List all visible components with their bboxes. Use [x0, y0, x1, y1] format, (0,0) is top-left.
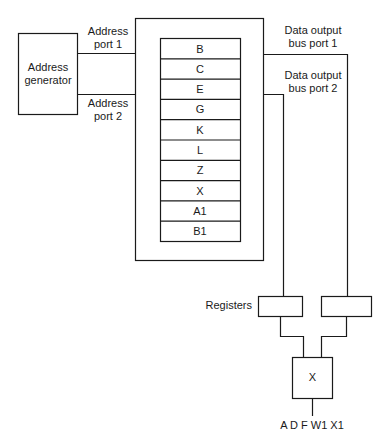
data-bus-2-line	[263, 95, 284, 297]
data-bus-2-line1: Data output	[268, 69, 358, 82]
memory-cell: A1	[160, 201, 240, 221]
register-right	[322, 297, 372, 317]
data-bus-1-line2: bus port 1	[268, 37, 358, 50]
data-bus-2-label: Data output bus port 2	[268, 69, 358, 95]
data-bus-1-label: Data output bus port 1	[268, 24, 358, 50]
address-port-2-line1: Address	[83, 97, 133, 110]
memory-cell: G	[160, 99, 240, 119]
memory-cell: Z	[160, 160, 240, 180]
address-port-1-line2: port 1	[83, 38, 133, 51]
data-bus-1-line1: Data output	[268, 24, 358, 37]
address-port-2-line2: port 2	[83, 110, 133, 123]
register-left	[259, 297, 303, 317]
memory-cell: E	[160, 79, 240, 99]
data-bus-2-line2: bus port 2	[268, 82, 358, 95]
memory-cell: B1	[160, 221, 240, 241]
memory-cell: L	[160, 140, 240, 160]
address-port-1-line1: Address	[83, 25, 133, 38]
registers-label: Registers	[200, 299, 252, 312]
address-port-2-label: Address port 2	[83, 97, 133, 123]
memory-cell: B	[160, 39, 240, 59]
address-generator-line2: generator	[18, 74, 78, 87]
memory-cell: K	[160, 120, 240, 140]
address-port-1-label: Address port 1	[83, 25, 133, 51]
memory-cell: X	[160, 181, 240, 201]
memory-cell: C	[160, 59, 240, 79]
address-generator-label: Address generator	[18, 61, 78, 87]
output-label: A D F W1 X1	[262, 419, 362, 432]
operator-label: X	[292, 371, 333, 384]
address-generator-line1: Address	[18, 61, 78, 74]
